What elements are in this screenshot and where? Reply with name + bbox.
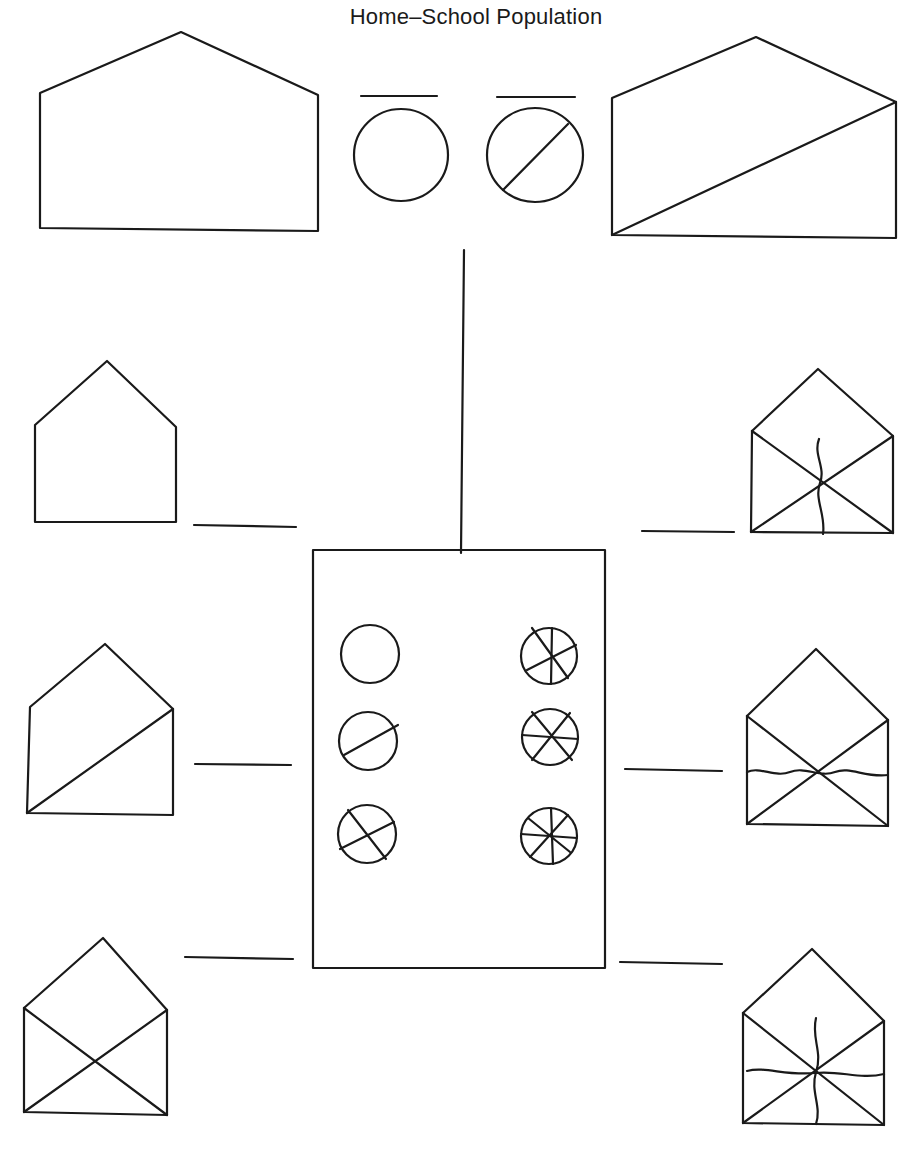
house-division-line bbox=[27, 709, 173, 813]
legend-whole bbox=[354, 96, 448, 201]
house-outline bbox=[747, 649, 888, 826]
school-symbols bbox=[338, 625, 578, 864]
answer-blank bbox=[185, 957, 293, 959]
vertical-connector bbox=[461, 250, 464, 553]
connector-line bbox=[461, 250, 464, 553]
answer-blank bbox=[194, 525, 296, 527]
circle-division-line bbox=[344, 725, 398, 755]
school-outline bbox=[313, 550, 605, 968]
house-left-1 bbox=[35, 361, 296, 527]
answer-blank bbox=[642, 531, 734, 532]
school-sixth bbox=[521, 628, 577, 684]
top-legend bbox=[354, 96, 583, 202]
house-right-2 bbox=[625, 649, 888, 826]
large-house-left bbox=[40, 32, 318, 231]
school-eighth bbox=[521, 808, 577, 864]
school-quarter bbox=[338, 805, 396, 863]
house-left-3 bbox=[24, 938, 293, 1115]
school-half bbox=[339, 712, 398, 770]
circle-division-line bbox=[551, 628, 552, 684]
school-sixth-b bbox=[522, 709, 578, 765]
school-building bbox=[313, 550, 605, 968]
circle-division-line bbox=[348, 810, 386, 859]
house-outline bbox=[612, 37, 896, 238]
house-outline bbox=[35, 361, 176, 522]
circle-symbol bbox=[521, 628, 577, 684]
house-right-3 bbox=[620, 949, 884, 1125]
circle-symbol bbox=[354, 109, 448, 201]
house-outline bbox=[27, 644, 173, 815]
top-houses bbox=[40, 32, 896, 238]
circle-division-line bbox=[503, 124, 568, 190]
house-left-2 bbox=[27, 644, 291, 815]
large-house-right bbox=[612, 37, 896, 238]
house-divider-line bbox=[612, 102, 896, 235]
answer-blank bbox=[625, 769, 722, 771]
circle-symbol bbox=[487, 108, 583, 202]
diagram-canvas bbox=[0, 0, 924, 1158]
answer-blank bbox=[195, 764, 291, 765]
circle-division-line bbox=[551, 808, 553, 864]
house-outline bbox=[40, 32, 318, 231]
small-houses bbox=[24, 361, 893, 1125]
legend-half bbox=[487, 97, 583, 202]
circle-symbol bbox=[341, 625, 399, 683]
house-right-1 bbox=[642, 369, 893, 534]
house-wavy-line bbox=[817, 439, 823, 534]
answer-blank bbox=[620, 962, 722, 964]
school-whole bbox=[341, 625, 399, 683]
